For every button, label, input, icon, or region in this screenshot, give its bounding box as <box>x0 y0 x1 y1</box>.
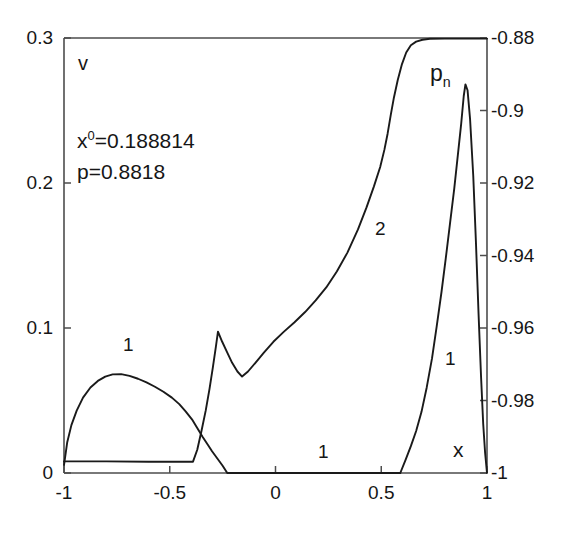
y-axis-right-ticks <box>480 38 487 473</box>
axes-frame <box>64 38 487 473</box>
left-axis-symbol-label: v <box>78 52 88 75</box>
x0-base: x <box>77 129 88 152</box>
axis-tick-label: 0.2 <box>0 172 53 194</box>
axis-tick-label: 0.5 <box>368 482 394 504</box>
pn-base: p <box>430 60 443 86</box>
axis-tick-label: -0.98 <box>491 390 534 412</box>
axis-tick-label: -0.88 <box>491 27 534 49</box>
curve-label-v-spike: 1 <box>445 348 456 370</box>
axis-tick-label: -0.9 <box>491 100 524 122</box>
axis-tick-label: -0.94 <box>491 245 534 267</box>
curve-label-pn-flat: 1 <box>318 441 329 463</box>
axis-tick-label: -1 <box>491 462 508 484</box>
axis-tick-label: -1 <box>56 482 73 504</box>
axis-tick-label: 1 <box>482 482 493 504</box>
data-curves <box>64 39 487 473</box>
axis-tick-label: -0.92 <box>491 172 534 194</box>
annotation-x0: x0=0.188814 <box>77 128 195 153</box>
x0-value: =0.188814 <box>95 129 195 152</box>
x-axis-symbol-label: x <box>453 438 464 462</box>
axis-tick-label: 0.1 <box>0 317 53 339</box>
x0-superscript: 0 <box>88 128 95 143</box>
axis-tick-label: 0 <box>270 482 281 504</box>
figure-canvas: 00.10.20.3 -1-0.98-0.96-0.94-0.92-0.9-0.… <box>0 0 568 533</box>
right-axis-symbol-label: pn <box>430 60 451 90</box>
axis-tick-label: 0.3 <box>0 27 53 49</box>
x-axis-ticks <box>64 466 487 473</box>
axis-tick-label: 0 <box>0 462 53 484</box>
curve-label-v-left: 1 <box>123 334 134 356</box>
axis-tick-label: -0.96 <box>491 317 534 339</box>
y-axis-left-ticks <box>64 38 71 473</box>
axis-tick-label: -0.5 <box>153 482 186 504</box>
plot-svg <box>0 0 568 533</box>
curve-path <box>64 374 400 473</box>
annotation-p: p=0.8818 <box>77 160 165 184</box>
curve-path <box>400 84 487 473</box>
pn-subscript: n <box>443 74 451 90</box>
curve-label-pn-rise: 2 <box>375 218 386 240</box>
